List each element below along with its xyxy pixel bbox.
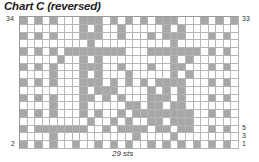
chart-cell [50,126,58,134]
chart-cell [141,33,149,41]
chart-cell [156,141,164,149]
chart-cell [73,48,81,56]
chart-cell [224,40,232,48]
chart-cell [80,56,88,64]
chart-cell [88,64,96,72]
chart-cell [141,102,149,110]
chart-cell [111,95,119,103]
chart-cell [88,56,96,64]
chart-cell [201,48,209,56]
chart-cell [95,87,103,95]
chart-cell [88,71,96,79]
chart-cell [209,141,217,149]
chart-cell [28,126,36,134]
chart-cell [141,17,149,25]
chart-cell [156,126,164,134]
chart-cell [20,102,28,110]
chart-cell [95,17,103,25]
chart-cell [20,110,28,118]
chart-cell [118,95,126,103]
chart-cell [163,133,171,141]
chart-cell [133,95,141,103]
chart-cell [148,79,156,87]
chart-cell [148,133,156,141]
chart-cell [58,87,66,95]
chart-cell [156,56,164,64]
chart-cell [111,17,119,25]
chart-cell [80,110,88,118]
chart-cell [171,95,179,103]
chart-cell [133,141,141,149]
chart-cell [65,71,73,79]
chart-cell [35,133,43,141]
chart-cell [133,33,141,41]
chart-cell [28,64,36,72]
chart-cell [148,141,156,149]
chart-cell [118,79,126,87]
chart-cell [133,25,141,33]
chart-cell [118,25,126,33]
chart-cell [163,79,171,87]
chart-cell [126,118,134,126]
chart-cell [50,40,58,48]
chart-cell [73,79,81,87]
chart-cell [163,141,171,149]
chart-cell [133,56,141,64]
chart-cell [35,102,43,110]
chart-cell [186,25,194,33]
chart-cell [80,95,88,103]
chart-cell [50,141,58,149]
chart-cell [201,133,209,141]
chart-cell [95,110,103,118]
chart-cell [35,141,43,149]
chart-cell [80,71,88,79]
chart-cell [58,25,66,33]
chart-cell [171,133,179,141]
chart-cell [103,95,111,103]
chart-cell [156,118,164,126]
chart-cell [186,64,194,72]
chart-cell [224,25,232,33]
chart-cell [65,25,73,33]
chart-cell [171,102,179,110]
chart-cell [224,110,232,118]
chart-cell [80,79,88,87]
chart-cell [50,48,58,56]
chart-cell [103,56,111,64]
chart-cell [118,64,126,72]
chart-cell [224,118,232,126]
chart-cell [163,64,171,72]
chart-cell [201,33,209,41]
chart-cell [133,102,141,110]
chart-cell [28,102,36,110]
chart-cell [28,56,36,64]
chart-cell [148,71,156,79]
chart-cell [156,48,164,56]
chart-cell [118,71,126,79]
chart-cell [50,110,58,118]
chart-cell [103,126,111,134]
chart-cell [88,126,96,134]
chart-cell [186,126,194,134]
chart-cell [58,71,66,79]
chart-cell [80,17,88,25]
chart-cell [50,71,58,79]
chart-cell [209,71,217,79]
chart-cell [194,79,202,87]
chart-cell [58,133,66,141]
chart-cell [156,17,164,25]
chart-cell [65,64,73,72]
chart-cell [163,71,171,79]
chart-cell [216,110,224,118]
chart-cell [186,87,194,95]
chart-cell [216,118,224,126]
chart-cell [156,64,164,72]
chart-cell [148,56,156,64]
chart-cell [35,71,43,79]
chart-cell [231,64,239,72]
chart-cell [65,17,73,25]
chart-cell [28,141,36,149]
chart-cell [58,126,66,134]
chart-cell [201,95,209,103]
chart-cell [231,33,239,41]
